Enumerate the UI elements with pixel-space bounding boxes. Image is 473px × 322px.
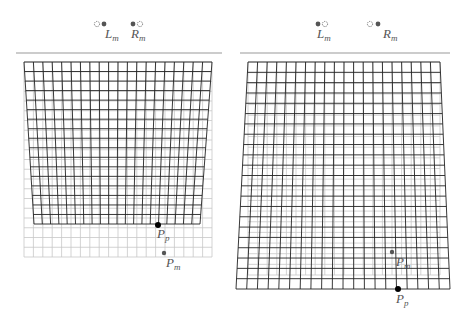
- right-panel-warped-grid: [236, 62, 450, 289]
- right-panel-eye-label-R: Rm: [383, 27, 397, 43]
- eye-solid-icon: [376, 22, 381, 27]
- right-panel-label-Pp: Pp: [396, 292, 408, 308]
- eye-dashed-icon: [367, 21, 372, 26]
- point-Pm: [390, 250, 394, 254]
- right-panel-eye-label-L: Lm: [317, 27, 331, 43]
- left-panel-label-Pp: Pp: [157, 227, 169, 243]
- right-panel-label-Pm: Pm: [396, 255, 410, 271]
- diagram-canvas: [0, 0, 473, 322]
- left-panel-eye-label-R: Rm: [131, 27, 145, 43]
- left-panel-eye-label-L: Lm: [105, 27, 119, 43]
- eye-dashed-icon: [94, 21, 99, 26]
- left-panel-label-Pm: Pm: [166, 256, 180, 272]
